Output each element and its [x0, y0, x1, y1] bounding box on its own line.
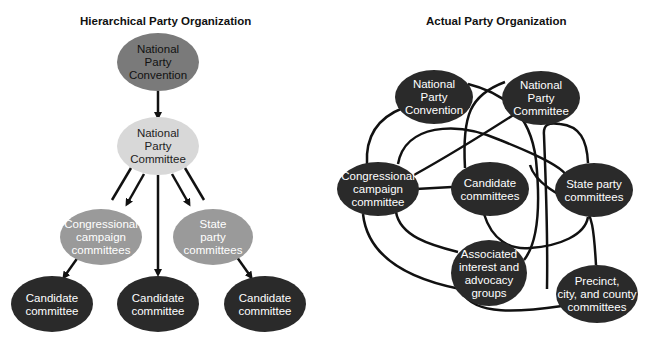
hierarchy-arrow — [185, 168, 204, 200]
node-label-line: Party — [145, 56, 172, 68]
node-label-line: Candidate — [132, 292, 184, 304]
network-node-npc: NationalPartyConvention — [395, 70, 473, 124]
network-nodes: NationalPartyConventionNationalPartyComm… — [337, 70, 638, 323]
hierarchy-node-cand3: Candidatecommittee — [224, 276, 306, 332]
node-label-line: National — [137, 127, 179, 139]
node-label-line: State party — [566, 178, 622, 190]
node-label-line: State — [200, 218, 227, 230]
node-label-line: campaign — [353, 183, 403, 195]
node-label-line: campaign — [76, 231, 126, 243]
network-node-npcom: NationalPartyCommittee — [502, 71, 580, 125]
hierarchy-node-npcom: NationalPartyCommittee — [117, 117, 199, 175]
hierarchy-arrow — [112, 168, 131, 200]
node-label-line: Candidate — [239, 292, 291, 304]
node-label-line: Congressional — [64, 218, 138, 230]
hierarchy-arrow — [172, 174, 189, 204]
node-label-line: Candidate — [26, 292, 78, 304]
node-label-line: committee — [131, 305, 184, 317]
network-node-cand: Candidatecommittees — [451, 162, 529, 216]
hierarchy-node-cand1: Candidatecommittee — [11, 276, 93, 332]
node-label-line: committee — [25, 305, 78, 317]
node-label-line: advocacy — [465, 274, 514, 286]
network-link — [363, 214, 460, 289]
network-node-precinct: Precinct,city, and countycommittees — [556, 265, 638, 323]
node-label-line: party — [200, 231, 226, 243]
node-label-line: committees — [568, 301, 627, 313]
network-node-assoc: Associatedinterest andadvocacygroups — [451, 240, 527, 306]
node-label-line: Convention — [405, 104, 463, 116]
network-node-spc: State partycommittees — [555, 163, 633, 217]
network-link — [367, 108, 403, 164]
node-label-line: Party — [528, 92, 555, 104]
node-label-line: National — [413, 78, 455, 90]
node-label-line: committees — [461, 190, 520, 202]
hierarchy-node-cand2: Candidatecommittee — [117, 276, 199, 332]
node-label-line: Congressional — [341, 170, 415, 182]
node-label-line: interest and — [459, 261, 519, 273]
node-label-line: Committee — [513, 105, 569, 117]
network-link — [396, 212, 458, 252]
node-label-line: Party — [145, 140, 172, 152]
node-label-line: committees — [72, 244, 131, 256]
node-label-line: committees — [565, 191, 624, 203]
node-label-line: committee — [238, 305, 291, 317]
node-label-line: Committee — [130, 153, 186, 165]
node-label-line: Party — [421, 91, 448, 103]
node-label-line: Candidate — [464, 177, 516, 189]
hierarchy-node-spc: Statepartycommittees — [173, 209, 253, 265]
node-label-line: city, and county — [557, 288, 636, 300]
node-label-line: Associated — [461, 248, 517, 260]
node-label-line: groups — [471, 287, 506, 299]
network-node-ccc: Congressionalcampaigncommittee — [337, 162, 419, 216]
node-label-line: Precinct, — [575, 275, 620, 287]
node-label-line: Convention — [129, 69, 187, 81]
hierarchy-node-ccc: Congressionalcampaigncommittees — [60, 209, 142, 265]
hierarchy-arrow — [127, 174, 144, 204]
node-label-line: National — [137, 43, 179, 55]
party-organization-diagrams: NationalPartyConventionNationalPartyComm… — [0, 0, 653, 347]
node-label-line: committee — [351, 196, 404, 208]
hierarchy-node-npc: NationalPartyConvention — [117, 33, 199, 91]
network-link — [416, 187, 452, 189]
node-label-line: committees — [184, 244, 243, 256]
node-label-line: National — [520, 79, 562, 91]
